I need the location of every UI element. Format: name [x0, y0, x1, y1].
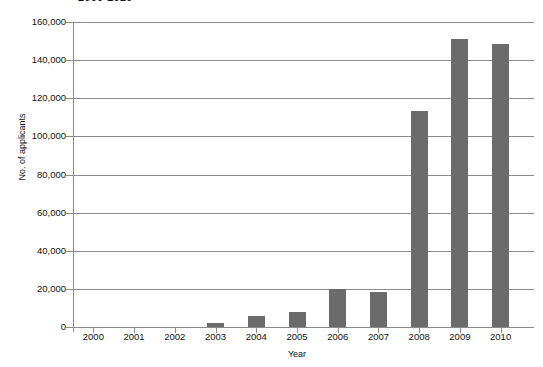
- chart-title: 2000-2010: [78, 0, 338, 3]
- y-axis-tick-label: 160,000: [4, 17, 66, 27]
- y-axis-tick: [66, 98, 73, 99]
- y-axis-tick-label: 120,000: [4, 93, 66, 103]
- x-axis-tick-label: 2001: [111, 331, 157, 343]
- y-axis-tick-labels: 160,000140,000120,000100,00080,00060,000…: [2, 22, 66, 327]
- bar: [289, 312, 306, 327]
- y-axis-tick-label: 0: [4, 322, 66, 332]
- x-axis-tick-label: 2010: [478, 331, 524, 343]
- x-axis-tick-label: 2000: [70, 331, 116, 343]
- x-axis-tick-label: 2009: [437, 331, 483, 343]
- bar: [451, 39, 468, 327]
- y-axis-tick-right: [521, 251, 534, 252]
- y-axis-tick: [66, 251, 73, 252]
- y-axis-tick-label: 140,000: [4, 55, 66, 65]
- y-axis-tick-right: [521, 98, 534, 99]
- bar: [411, 111, 428, 327]
- bar: [248, 316, 265, 327]
- x-axis-tick-label: 2004: [233, 331, 279, 343]
- y-axis-tick: [66, 22, 73, 23]
- y-axis-tick: [66, 136, 73, 137]
- y-axis-tick: [66, 213, 73, 214]
- bar: [492, 44, 509, 327]
- bar: [207, 323, 224, 327]
- plot-area: [73, 22, 521, 327]
- chart-figure: 2000-2010 No. of applicants 160,000140,0…: [0, 0, 543, 367]
- gridline: [73, 22, 521, 23]
- y-axis-tick-right: [521, 136, 534, 137]
- y-axis-tick-right: [521, 60, 534, 61]
- x-axis-tick-label: 2007: [355, 331, 401, 343]
- x-axis-tick-label: 2005: [274, 331, 320, 343]
- y-axis-tick-right: [521, 175, 534, 176]
- y-axis-tick-right: [521, 22, 534, 23]
- y-axis-tick-label: 20,000: [4, 284, 66, 294]
- y-axis-tick-label: 100,000: [4, 131, 66, 141]
- x-axis-tick-label: 2003: [193, 331, 239, 343]
- y-axis-tick-label: 60,000: [4, 208, 66, 218]
- x-axis-tick-label: 2008: [396, 331, 442, 343]
- y-axis-tick: [66, 289, 73, 290]
- y-axis-tick-label: 80,000: [4, 170, 66, 180]
- bar: [329, 289, 346, 327]
- bar: [370, 292, 387, 327]
- y-axis-tick: [66, 60, 73, 61]
- y-axis-tick-right: [521, 327, 534, 328]
- y-axis-tick-label: 40,000: [4, 246, 66, 256]
- x-axis-tick-label: 2006: [315, 331, 361, 343]
- x-axis-tick-label: 2002: [152, 331, 198, 343]
- y-axis-tick: [66, 327, 73, 328]
- x-axis-tick-labels: 2000200120022003200420052006200720082009…: [73, 331, 521, 345]
- y-axis-tick-right: [521, 213, 534, 214]
- y-axis-tick-right: [521, 289, 534, 290]
- x-axis-title: Year: [73, 349, 521, 359]
- y-axis-tick: [66, 175, 73, 176]
